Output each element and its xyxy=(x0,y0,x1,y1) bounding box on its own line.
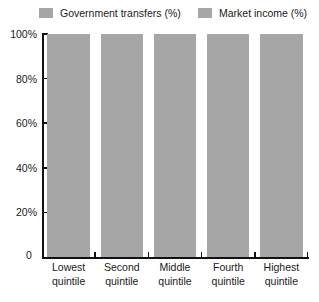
bar-segment xyxy=(47,34,90,257)
x-axis-label-line: Lowest xyxy=(42,261,95,275)
x-axis-label-line: Fourth xyxy=(202,261,255,275)
bar-group xyxy=(47,34,90,257)
plot-area: 20%40%60%80%100% xyxy=(42,34,308,257)
x-axis-label: Middlequintile xyxy=(148,261,201,288)
x-axis-label-line: quintile xyxy=(202,275,255,289)
bar-segment xyxy=(260,34,303,257)
x-axis-label: Highestquintile xyxy=(255,261,308,288)
x-axis-label-line: quintile xyxy=(95,275,148,289)
bar-segment xyxy=(207,34,250,257)
legend-label-government-transfers: Government transfers (%) xyxy=(60,7,181,19)
x-axis-label-line: quintile xyxy=(148,275,201,289)
bar-group xyxy=(207,34,250,257)
x-axis-label-line: Highest xyxy=(255,261,308,275)
y-tick-label: 80% xyxy=(16,73,37,84)
y-tick-label: 40% xyxy=(16,163,37,174)
x-axis-label: Secondquintile xyxy=(95,261,148,288)
bar-group xyxy=(101,34,144,257)
bar-group xyxy=(260,34,303,257)
legend-swatch-government-transfers xyxy=(39,8,53,18)
x-axis-label-line: quintile xyxy=(255,275,308,289)
legend-label-market-income: Market income (%) xyxy=(219,7,307,19)
legend-swatch-market-income xyxy=(198,8,212,18)
x-axis-label: Fourthquintile xyxy=(202,261,255,288)
x-axis-label-line: quintile xyxy=(42,275,95,289)
legend-item-market-income: Market income (%) xyxy=(198,6,307,20)
bar-series-container xyxy=(42,34,308,257)
chart-legend: Government transfers (%) Market income (… xyxy=(0,4,319,24)
y-tick-label: 20% xyxy=(16,207,37,218)
stacked-bar-chart: Government transfers (%) Market income (… xyxy=(0,0,319,302)
bar-group xyxy=(154,34,197,257)
x-axis-label-line: Middle xyxy=(148,261,201,275)
y-axis-zero-label: 0 xyxy=(26,250,32,261)
x-axis-labels: LowestquintileSecondquintileMiddlequinti… xyxy=(42,261,308,297)
legend-item-government-transfers: Government transfers (%) xyxy=(39,6,181,20)
x-axis-label-line: Second xyxy=(95,261,148,275)
x-axis-line xyxy=(42,257,309,259)
bar-segment xyxy=(101,34,144,257)
x-axis-label: Lowestquintile xyxy=(42,261,95,288)
bar-segment xyxy=(154,34,197,257)
y-tick-label: 60% xyxy=(16,118,37,129)
y-tick-label: 100% xyxy=(10,29,37,40)
